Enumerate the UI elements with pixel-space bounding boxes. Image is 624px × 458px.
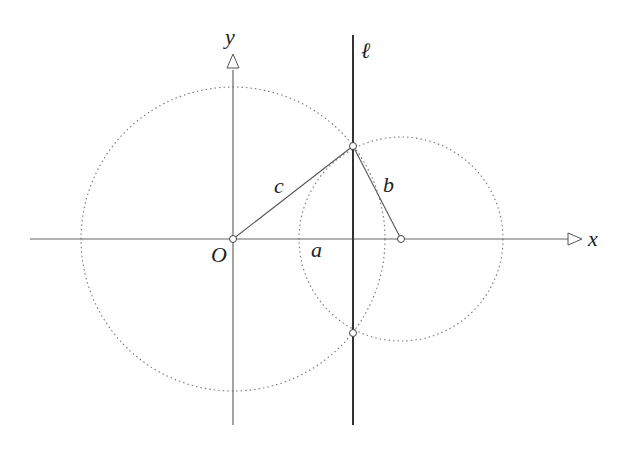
point-lower-intersection [350,330,357,337]
label-line-l: ℓ [361,38,371,63]
point-origin [230,236,237,243]
label-a: a [311,237,322,262]
label-b: b [383,172,394,197]
point-upper-intersection [350,143,357,150]
x-axis-arrow-icon [568,233,582,245]
segment-c [233,146,353,239]
point-on-x-axis [398,236,405,243]
y-axis-arrow-icon [227,54,239,68]
label-x: x [587,226,598,251]
label-y: y [223,24,235,49]
label-c: c [274,173,284,198]
label-origin: O [211,242,227,267]
diagram-canvas: y x ℓ O a b c [0,0,624,458]
